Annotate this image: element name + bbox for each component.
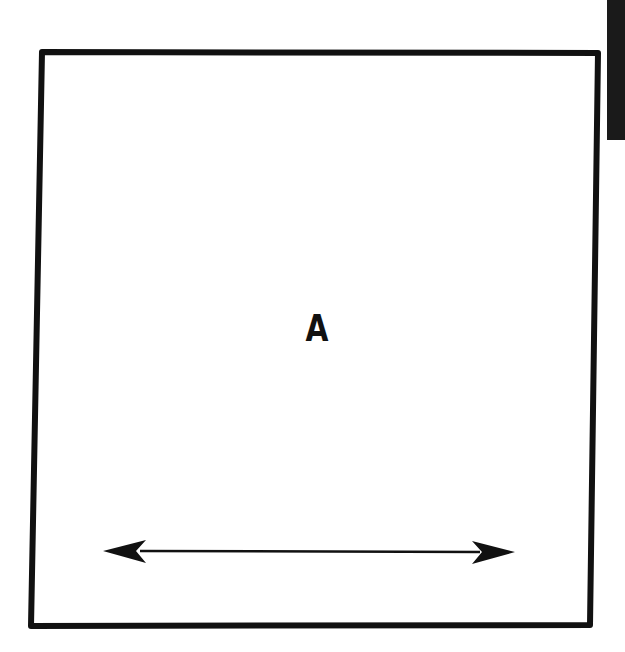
black-edge-bar [607,0,625,140]
square-label: A [301,306,332,350]
double-arrow [103,540,515,564]
arrowhead-left-icon [103,540,146,563]
